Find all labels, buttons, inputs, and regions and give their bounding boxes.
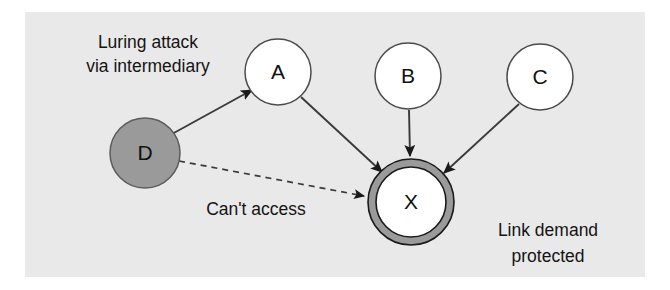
node-a-label: A	[271, 60, 285, 83]
annotation-link-demand-line1: Link demand	[498, 220, 598, 240]
node-b[interactable]: B	[375, 43, 441, 109]
node-d-label: D	[137, 141, 152, 164]
edge-a-to-x	[301, 97, 382, 172]
node-x[interactable]: X	[368, 159, 454, 245]
diagram-figure: X A B C D Luri	[0, 0, 670, 290]
edge-b-to-x	[409, 110, 410, 156]
edge-d-to-a	[172, 90, 252, 134]
annotation-cant-access: Can't access	[206, 199, 306, 219]
annotation-luring-line2: via intermediary	[86, 56, 210, 76]
edge-d-to-x	[179, 161, 364, 196]
node-a[interactable]: A	[245, 39, 311, 105]
annotation-link-demand-line2: protected	[512, 246, 585, 266]
edge-layer	[172, 90, 519, 196]
edge-c-to-x	[444, 104, 519, 173]
node-b-label: B	[401, 64, 415, 87]
annotation-luring-line1: Luring attack	[98, 32, 198, 52]
node-d[interactable]: D	[110, 118, 180, 188]
diagram-canvas: X A B C D Luri	[0, 0, 670, 290]
node-x-label: X	[404, 190, 418, 213]
node-c-label: C	[532, 65, 547, 88]
node-c[interactable]: C	[507, 44, 573, 110]
